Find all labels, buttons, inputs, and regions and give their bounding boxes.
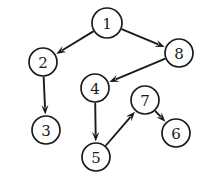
graph-node-8[interactable]: 8 <box>165 39 193 67</box>
graph-node-5[interactable]: 5 <box>82 143 110 171</box>
graph-node-4[interactable]: 4 <box>81 74 109 102</box>
graph-node-2[interactable]: 2 <box>29 48 57 76</box>
node-label-2: 2 <box>38 54 48 72</box>
node-layer: 12345678 <box>29 8 193 171</box>
graph-node-1[interactable]: 1 <box>92 8 122 38</box>
graph-node-6[interactable]: 6 <box>162 119 190 147</box>
node-label-5: 5 <box>91 149 101 167</box>
edge-2-to-3 <box>41 77 48 114</box>
graph-node-7[interactable]: 7 <box>131 86 159 114</box>
edge-1-to-2 <box>56 32 93 54</box>
edge-8-to-4 <box>109 59 164 82</box>
node-label-7: 7 <box>140 92 150 110</box>
node-label-3: 3 <box>41 122 51 140</box>
edge-4-to-5 <box>92 104 99 142</box>
node-label-1: 1 <box>102 15 112 33</box>
node-label-8: 8 <box>174 45 184 63</box>
node-label-6: 6 <box>171 125 181 143</box>
edge-5-to-7 <box>106 112 135 146</box>
edge-1-to-8 <box>122 29 164 47</box>
arrowhead-1-to-2 <box>56 46 66 54</box>
graph-canvas: 12345678 <box>0 0 209 186</box>
graph-node-3[interactable]: 3 <box>32 116 60 144</box>
node-label-4: 4 <box>90 80 100 98</box>
edge-7-to-6 <box>156 111 166 121</box>
directed-graph-figure: 12345678 <box>0 0 209 186</box>
